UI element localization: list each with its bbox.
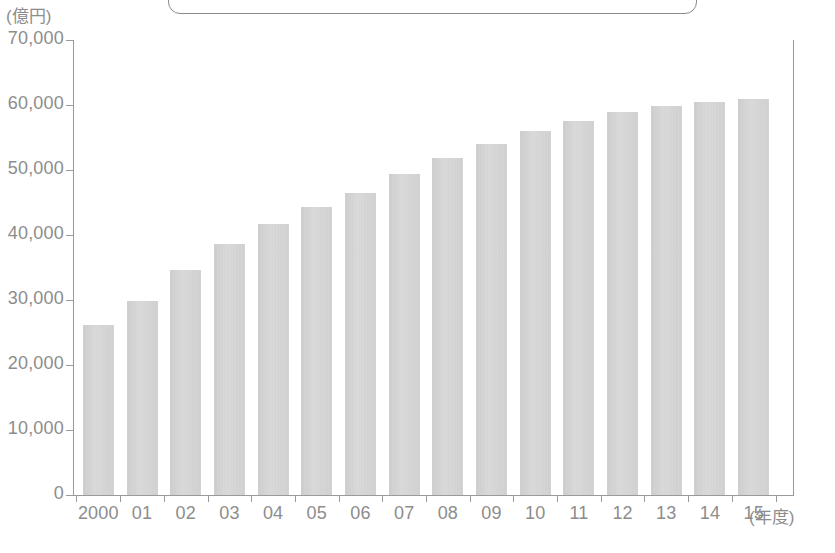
x-axis-tick-mark <box>208 495 209 502</box>
x-axis-tick-mark <box>382 495 383 502</box>
y-axis-tick-mark <box>66 40 74 41</box>
x-axis-unit-label: (年度) <box>749 503 794 528</box>
bar <box>432 158 463 495</box>
y-axis-tick-mark <box>66 365 74 366</box>
bar <box>301 207 332 495</box>
chart-screenshot: (億円) 70,00060,00050,00040,00030,00020,00… <box>0 0 835 553</box>
y-axis-tick-label: 0 <box>2 483 64 504</box>
y-axis-tick-mark <box>66 495 74 496</box>
bar <box>83 325 114 495</box>
y-axis-tick-label: 20,000 <box>2 353 64 374</box>
x-axis-tick-mark <box>339 495 340 502</box>
x-axis-tick-mark <box>470 495 471 502</box>
y-axis-tick-mark <box>66 235 74 236</box>
bar <box>170 270 201 495</box>
x-axis-tick-mark <box>251 495 252 502</box>
y-axis-tick-mark <box>66 105 74 106</box>
x-axis-tick-mark <box>688 495 689 502</box>
bar <box>127 301 158 495</box>
y-axis-tick-mark <box>66 430 74 431</box>
bar-chart-plot: 70,00060,00050,00040,00030,00020,00010,0… <box>0 0 835 553</box>
x-axis-tick-mark <box>732 495 733 502</box>
y-axis-tick-mark <box>66 170 74 171</box>
x-axis-tick-mark <box>601 495 602 502</box>
bar <box>563 121 594 495</box>
plot-right-border-line <box>793 40 794 496</box>
y-axis-tick-label: 30,000 <box>2 288 64 309</box>
bar <box>476 144 507 495</box>
x-axis-tick-mark <box>557 495 558 502</box>
y-axis-tick-label: 70,000 <box>2 28 64 49</box>
x-axis-tick-mark <box>76 495 77 502</box>
y-axis-tick-label: 40,000 <box>2 223 64 244</box>
bar <box>520 131 551 495</box>
x-axis-tick-mark <box>164 495 165 502</box>
bar <box>651 106 682 495</box>
x-axis-tick-mark <box>120 495 121 502</box>
x-axis-tick-mark <box>295 495 296 502</box>
y-axis-line <box>73 40 74 496</box>
bar <box>694 102 725 495</box>
y-axis-tick-label: 50,000 <box>2 158 64 179</box>
bar <box>214 244 245 495</box>
x-axis-tick-mark <box>776 495 777 502</box>
x-axis-line <box>73 495 794 496</box>
y-axis-tick-label: 60,000 <box>2 93 64 114</box>
x-axis-tick-mark <box>426 495 427 502</box>
y-axis-tick-label: 10,000 <box>2 418 64 439</box>
y-axis-tick-mark <box>66 300 74 301</box>
x-axis-tick-mark <box>513 495 514 502</box>
bar <box>345 193 376 495</box>
bar <box>607 112 638 496</box>
bar <box>258 224 289 495</box>
bar <box>738 99 769 496</box>
x-axis-tick-mark <box>644 495 645 502</box>
bar <box>389 174 420 495</box>
